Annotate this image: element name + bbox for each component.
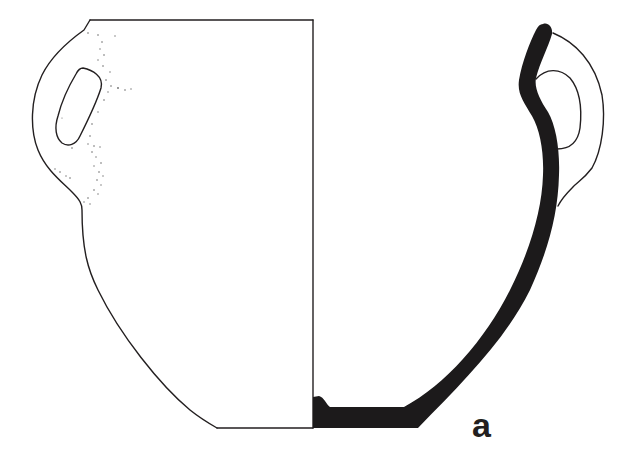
handle-hole-left (56, 68, 102, 145)
wall-section (313, 24, 559, 428)
exterior-contour (32, 20, 217, 428)
section-profile (313, 24, 604, 428)
vessel-drawing (0, 0, 641, 468)
handle-outer-contour (553, 33, 604, 206)
stipple-texture (54, 32, 131, 205)
exterior-view (32, 20, 313, 428)
figure-label: a (472, 408, 491, 442)
